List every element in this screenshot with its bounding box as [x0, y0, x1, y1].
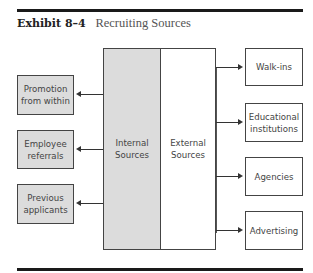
connector-educational: [216, 122, 239, 123]
exhibit-caption: Recruiting Sources: [95, 16, 190, 30]
advertising-box: Advertising: [245, 211, 303, 250]
educational-box: Educationalinstitutions: [245, 103, 303, 142]
advertising-label: Advertising: [250, 225, 299, 237]
bottom-rule: [17, 268, 303, 271]
walk-ins-box: Walk-ins: [245, 48, 303, 86]
connector-promotion: [80, 94, 103, 95]
previous-applicants-box: Previousapplicants: [17, 184, 74, 224]
employee-referrals-box: Employeereferrals: [17, 130, 74, 169]
arrow-left-icon: [76, 200, 81, 206]
connector-agencies: [216, 176, 239, 177]
arrow-left-icon: [76, 146, 81, 152]
agencies-label: Agencies: [255, 171, 294, 183]
previous-line1: Previous: [23, 192, 67, 204]
arrow-right-icon: [238, 173, 243, 179]
educational-line1: Educational: [249, 111, 299, 123]
employee-line2: referrals: [24, 150, 67, 162]
top-rule: [17, 9, 303, 12]
promotion-line2: from within: [21, 95, 70, 107]
connector-walk-ins: [216, 67, 239, 68]
employee-line1: Employee: [24, 138, 67, 150]
internal-sources-label: Internal Sources: [112, 137, 152, 161]
promotion-box: Promotionfrom within: [17, 75, 74, 115]
agencies-box: Agencies: [245, 157, 303, 196]
arrow-right-icon: [238, 119, 243, 125]
previous-line2: applicants: [23, 204, 67, 216]
connector-employee: [80, 149, 103, 150]
educational-line2: institutions: [249, 123, 299, 135]
promotion-line1: Promotion: [21, 83, 70, 95]
walk-ins-label: Walk-ins: [256, 61, 292, 73]
external-sources-label: External Sources: [166, 137, 210, 161]
external-sources-box: External Sources: [160, 48, 216, 250]
external-trunk: [216, 67, 217, 233]
exhibit-title: Exhibit 8–4 Recruiting Sources: [17, 16, 191, 31]
arrow-right-icon: [238, 64, 243, 70]
connector-previous: [80, 203, 103, 204]
exhibit-number: Exhibit 8–4: [17, 17, 86, 30]
internal-sources-box: Internal Sources: [103, 48, 161, 250]
arrow-right-icon: [238, 227, 243, 233]
connector-advertising: [216, 230, 239, 231]
arrow-left-icon: [76, 91, 81, 97]
